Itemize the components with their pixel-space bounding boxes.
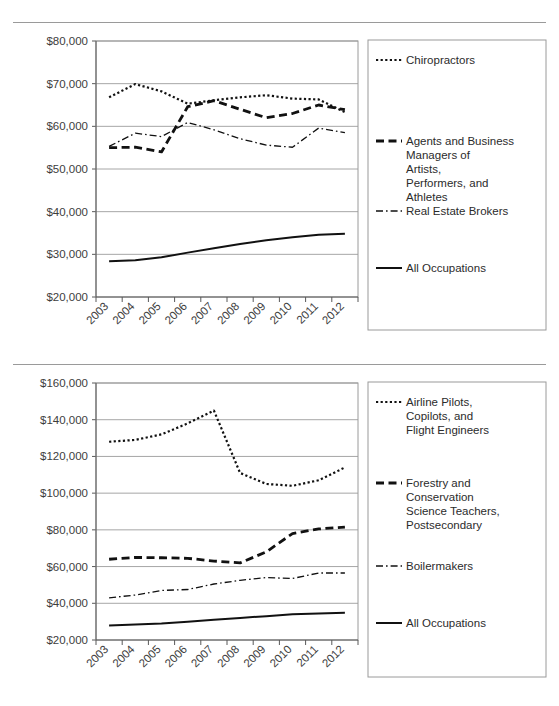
x-axis-tick-label: 2011: [294, 643, 320, 669]
legend-label[interactable]: Conservation: [406, 491, 474, 503]
x-axis-tick-label: 2004: [110, 300, 137, 327]
x-axis-tick-label: 2005: [136, 300, 163, 327]
x-axis-tick-label: 2009: [241, 643, 268, 670]
x-axis-tick-label: 2012: [320, 643, 347, 670]
legend-label[interactable]: All Occupations: [406, 617, 486, 629]
figure-bottom-chart: $20,000$40,000$60,000$80,000$100,000$120…: [0, 355, 559, 706]
plot-frame: [96, 383, 358, 640]
x-axis-tick-label: 2008: [215, 300, 242, 327]
y-axis-tick-label: $80,000: [46, 35, 88, 47]
x-axis-tick-label: 2010: [267, 300, 294, 327]
figure-top-chart: $20,000$30,000$40,000$50,000$60,000$70,0…: [0, 0, 559, 355]
chart-page: $20,000$30,000$40,000$50,000$60,000$70,0…: [0, 0, 559, 706]
y-axis-tick-label: $160,000: [40, 377, 88, 389]
y-axis-tick-label: $30,000: [46, 248, 88, 260]
legend-label[interactable]: Athletes: [406, 191, 448, 203]
series-line: [109, 613, 345, 626]
legend-label[interactable]: Managers of: [406, 149, 471, 161]
line-chart-bottom: $20,000$40,000$60,000$80,000$100,000$120…: [0, 355, 559, 706]
x-axis-tick-label: 2003: [84, 643, 111, 670]
legend-label[interactable]: Real Estate Brokers: [406, 205, 509, 217]
x-axis-tick-label: 2010: [267, 643, 294, 670]
y-axis-tick-label: $40,000: [46, 206, 88, 218]
x-axis-tick-label: 2009: [241, 300, 268, 327]
y-axis-tick-label: $40,000: [46, 597, 88, 609]
line-chart-top: $20,000$30,000$40,000$50,000$60,000$70,0…: [0, 0, 559, 355]
x-axis-tick-label: 2003: [84, 300, 111, 327]
series-line: [109, 527, 345, 563]
x-axis-tick-label: 2012: [320, 300, 347, 327]
x-axis-tick-label: 2007: [189, 300, 216, 327]
legend-label[interactable]: Flight Engineers: [406, 424, 489, 436]
series-line: [109, 234, 345, 261]
y-axis-tick-label: $60,000: [46, 561, 88, 573]
legend-label[interactable]: Boilermakers: [406, 560, 473, 572]
x-axis-tick-label: 2006: [163, 643, 190, 670]
legend-label[interactable]: Forestry and: [406, 477, 471, 489]
y-axis-tick-label: $50,000: [46, 163, 88, 175]
y-axis-tick-label: $120,000: [40, 450, 88, 462]
x-axis-tick-label: 2004: [110, 643, 137, 670]
x-axis-tick-label: 2006: [163, 300, 190, 327]
legend-label[interactable]: Copilots, and: [406, 410, 473, 422]
y-axis-tick-label: $140,000: [40, 414, 88, 426]
legend-label[interactable]: All Occupations: [406, 262, 486, 274]
y-axis-tick-label: $20,000: [46, 291, 88, 303]
legend-label[interactable]: Chiropractors: [406, 54, 475, 66]
y-axis-tick-label: $20,000: [46, 634, 88, 646]
x-axis-tick-label: 2008: [215, 643, 242, 670]
x-axis-tick-label: 2011: [294, 300, 320, 326]
legend-label[interactable]: Science Teachers,: [406, 505, 500, 517]
legend-label[interactable]: Performers, and: [406, 177, 488, 189]
y-axis-tick-label: $80,000: [46, 524, 88, 536]
legend-label[interactable]: Artists,: [406, 163, 441, 175]
y-axis-tick-label: $100,000: [40, 487, 88, 499]
x-axis-tick-label: 2007: [189, 643, 216, 670]
y-axis-tick-label: $70,000: [46, 78, 88, 90]
series-line: [109, 411, 345, 486]
x-axis-tick-label: 2005: [136, 643, 163, 670]
legend-label[interactable]: Airline Pilots,: [406, 396, 472, 408]
legend-label[interactable]: Postsecondary: [406, 519, 482, 531]
series-line: [109, 573, 345, 598]
legend-label[interactable]: Agents and Business: [406, 135, 514, 147]
y-axis-tick-label: $60,000: [46, 120, 88, 132]
